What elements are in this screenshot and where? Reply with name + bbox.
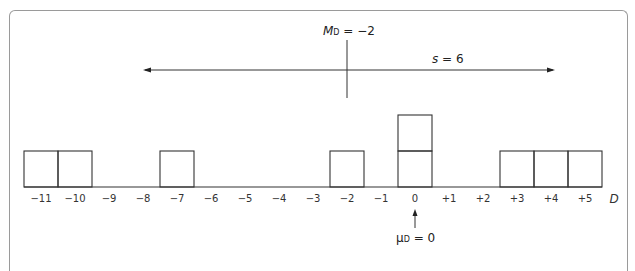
tick-label: −3 [306,193,321,204]
tick-label: −6 [204,193,219,204]
tick-label: +2 [476,193,491,204]
arrow-right-icon [547,68,555,73]
score-box [534,151,568,187]
tick-label: +3 [510,193,525,204]
tick-label: −9 [102,193,117,204]
arrow-left-icon [143,68,151,73]
tick-label: −8 [136,193,151,204]
tick-label: +5 [578,193,593,204]
mu-value: = 0 [410,231,435,245]
score-box [568,151,602,187]
tick-label: −7 [170,193,185,204]
tick-label: −11 [30,193,51,204]
mean-symbol: M [323,24,333,38]
std-dev-label: s = 6 [432,52,464,66]
tick-label: −2 [340,193,355,204]
score-box [500,151,534,187]
sample-mean-label: MD = −2 [323,24,375,38]
score-box [398,151,432,187]
tick-label: −4 [272,193,287,204]
axis-label-d: D [609,192,618,206]
score-box [58,151,92,187]
tick-label: −10 [64,193,85,204]
mean-value: = −2 [340,24,375,38]
tick-label: +4 [544,193,559,204]
tick-label: −5 [238,193,253,204]
tick-label: −1 [374,193,389,204]
mu-symbol: μ [396,231,404,245]
tick-label: +1 [442,193,457,204]
score-box [330,151,364,187]
score-box [160,151,194,187]
population-mean-label: μD = 0 [396,231,435,245]
score-box [24,151,58,187]
tick-label: 0 [412,193,418,204]
score-box [398,115,432,151]
sd-value: = 6 [438,52,463,66]
arrow-up-icon [413,209,418,216]
